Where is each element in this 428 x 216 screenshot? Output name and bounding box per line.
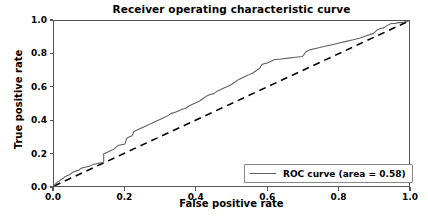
chart-legend: ROC curve (area = 0.58)	[244, 164, 413, 183]
x-tick-mark	[124, 187, 125, 191]
x-tick-mark	[409, 187, 410, 191]
x-tick-mark	[338, 187, 339, 191]
y-tick-mark	[50, 53, 54, 54]
roc-chart-figure: Receiver operating characteristic curve …	[0, 0, 428, 216]
y-tick-label: 0.0	[5, 182, 47, 192]
y-tick-label: 1.0	[5, 15, 47, 25]
y-tick-label: 0.4	[5, 115, 47, 125]
y-tick-mark	[50, 186, 54, 187]
plot-area	[53, 20, 410, 187]
y-tick-label: 0.6	[5, 82, 47, 92]
y-tick-label: 0.2	[5, 149, 47, 159]
x-tick-mark	[267, 187, 268, 191]
y-axis-label: True positive rate	[13, 40, 24, 160]
y-tick-label: 0.8	[5, 48, 47, 58]
y-tick-mark	[50, 120, 54, 121]
y-tick-mark	[50, 86, 54, 87]
legend-line-sample	[250, 173, 276, 174]
plot-svg	[54, 21, 409, 186]
x-axis-label: False positive rate	[53, 198, 410, 209]
x-tick-mark	[195, 187, 196, 191]
legend-entry-label: ROC curve (area = 0.58)	[283, 169, 406, 179]
chance-diagonal-line	[54, 21, 409, 186]
y-tick-mark	[50, 19, 54, 20]
page-title: Receiver operating characteristic curve	[53, 3, 410, 15]
y-tick-mark	[50, 153, 54, 154]
